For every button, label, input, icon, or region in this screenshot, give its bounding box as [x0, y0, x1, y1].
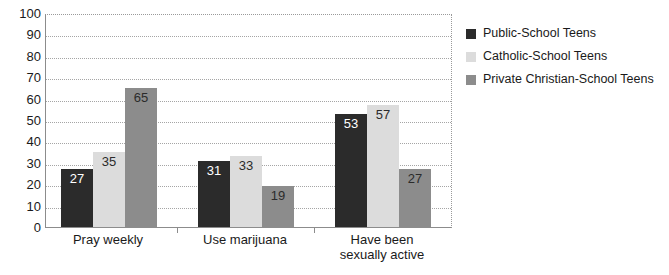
x-axis-category-label-line: Pray weekly [28, 232, 188, 247]
bar-value-label: 65 [125, 91, 157, 105]
x-axis-category-label: Have beensexually active [302, 232, 462, 262]
bar[interactable]: 27 [399, 169, 431, 227]
bar-chart: 1009080706050403020100 27356531331953572… [0, 0, 669, 275]
x-axis-category-label: Use marijuana [165, 232, 325, 247]
bar-value-label: 57 [367, 108, 399, 122]
legend-color-swatch [466, 52, 476, 62]
x-axis-tick [177, 228, 178, 233]
y-axis-tick-label: 80 [3, 50, 41, 63]
x-axis-category-label-line: Use marijuana [165, 232, 325, 247]
bar[interactable]: 31 [198, 161, 230, 227]
bar[interactable]: 33 [230, 156, 262, 227]
bar-value-label: 35 [93, 155, 125, 169]
bar[interactable]: 27 [61, 169, 93, 227]
legend-item-label: Private Christian-School Teens [483, 73, 654, 86]
legend-color-swatch [466, 29, 476, 39]
legend-item-label: Catholic-School Teens [483, 50, 607, 63]
y-axis-tick-label: 20 [3, 178, 41, 191]
bar[interactable]: 35 [93, 152, 125, 227]
x-axis-category-label-line: Have been [302, 232, 462, 247]
y-axis-tick-label: 60 [3, 93, 41, 106]
y-axis-tick-label: 90 [3, 28, 41, 41]
bars-layer: 273565313319535727 [46, 15, 451, 227]
bar-value-label: 27 [399, 172, 431, 186]
y-axis: 1009080706050403020100 [0, 14, 41, 228]
x-axis-tick [314, 228, 315, 233]
legend-item[interactable]: Catholic-School Teens [466, 45, 666, 68]
legend-color-swatch [466, 75, 476, 85]
chart-legend: Public-School TeensCatholic-School Teens… [466, 22, 666, 91]
y-axis-tick-label: 40 [3, 135, 41, 148]
bar-value-label: 31 [198, 164, 230, 178]
bar-group: 313319 [198, 15, 294, 227]
bar[interactable]: 65 [125, 88, 157, 227]
legend-item-label: Public-School Teens [483, 27, 596, 40]
bar-group: 535727 [335, 15, 431, 227]
y-axis-tick-label: 10 [3, 200, 41, 213]
legend-item[interactable]: Private Christian-School Teens [466, 68, 666, 91]
legend-item[interactable]: Public-School Teens [466, 22, 666, 45]
y-axis-tick-label: 70 [3, 71, 41, 84]
bar-value-label: 27 [61, 172, 93, 186]
y-axis-tick-label: 50 [3, 114, 41, 127]
bar[interactable]: 57 [367, 105, 399, 227]
bar[interactable]: 53 [335, 114, 367, 227]
bar-value-label: 53 [335, 117, 367, 131]
plot-area: 273565313319535727 [45, 14, 452, 228]
y-axis-tick-label: 100 [3, 7, 41, 20]
bar[interactable]: 19 [262, 186, 294, 227]
bar-value-label: 33 [230, 159, 262, 173]
x-axis-category-label-line: sexually active [302, 247, 462, 262]
bar-value-label: 19 [262, 189, 294, 203]
y-axis-tick-label: 30 [3, 157, 41, 170]
bar-group: 273565 [61, 15, 157, 227]
x-axis-category-label: Pray weekly [28, 232, 188, 247]
